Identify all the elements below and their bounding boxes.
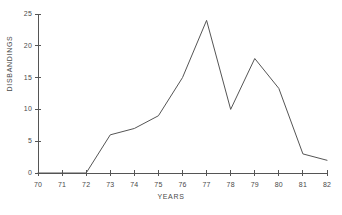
x-axis-tick-label: 75 [147,181,169,188]
x-axis-tick-label: 79 [244,181,266,188]
x-axis-tick-label: 77 [196,181,218,188]
y-axis-tick-label: 15 [10,74,32,81]
y-axis-tick-label: 5 [10,137,32,144]
x-axis-tick-label: 73 [99,181,121,188]
y-axis-title: DISBANDINGS [6,24,13,104]
x-axis-tick-label: 76 [172,181,194,188]
y-axis-tick-label: 25 [10,10,32,17]
x-axis-tick-label: 74 [123,181,145,188]
x-axis-tick-label: 81 [292,181,314,188]
x-axis-tick-label: 72 [75,181,97,188]
x-axis-title: YEARS [0,193,342,200]
chart-axes [38,14,327,173]
x-axis-tick-label: 80 [268,181,290,188]
y-axis-tick-label: 10 [10,105,32,112]
x-axis-tick-label: 82 [316,181,338,188]
line-chart: 0510152025 70717273747576777879808182 YE… [0,0,342,215]
y-axis-tick-label: 20 [10,42,32,49]
x-axis-tick-label: 71 [51,181,73,188]
x-axis-tick-label: 78 [220,181,242,188]
data-series-line [38,20,327,173]
x-axis-tick-label: 70 [27,181,49,188]
y-axis-tick-label: 0 [10,169,32,176]
